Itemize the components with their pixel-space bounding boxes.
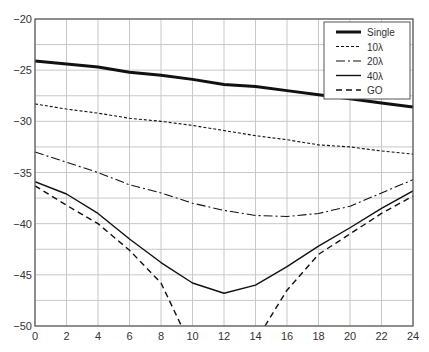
x-tick-label: 16	[281, 330, 293, 342]
x-tick-label: 14	[249, 330, 261, 342]
x-tick-label: 2	[63, 330, 69, 342]
legend-label: 40λ	[367, 71, 383, 82]
legend-label: GO	[367, 85, 383, 96]
y-tick-label: −20	[13, 13, 32, 25]
x-tick-label: 6	[126, 330, 132, 342]
y-tick-label: −50	[13, 320, 32, 332]
y-tick-label: −45	[13, 269, 32, 281]
legend-label: Single	[367, 27, 395, 38]
legend: Single10λ20λ40λGO	[324, 22, 410, 99]
legend-label: 10λ	[367, 42, 383, 53]
y-tick-label: −40	[13, 218, 32, 230]
x-tick-label: 20	[344, 330, 356, 342]
x-tick-label: 22	[375, 330, 387, 342]
y-tick-label: −30	[13, 115, 32, 127]
series-line-go	[35, 186, 181, 326]
line-chart: 024681012141618202224 −20−25−30−35−40−45…	[0, 0, 429, 352]
x-axis-ticks: 024681012141618202224	[32, 330, 419, 342]
x-tick-label: 0	[32, 330, 38, 342]
y-tick-label: −25	[13, 64, 32, 76]
x-tick-label: 10	[186, 330, 198, 342]
x-tick-label: 4	[95, 330, 101, 342]
x-tick-label: 8	[158, 330, 164, 342]
legend-label: 20λ	[367, 56, 383, 67]
y-tick-label: −35	[13, 167, 32, 179]
x-tick-label: 18	[312, 330, 324, 342]
x-tick-label: 12	[218, 330, 230, 342]
y-axis-ticks: −20−25−30−35−40−45−50	[13, 13, 32, 332]
x-tick-label: 24	[407, 330, 419, 342]
